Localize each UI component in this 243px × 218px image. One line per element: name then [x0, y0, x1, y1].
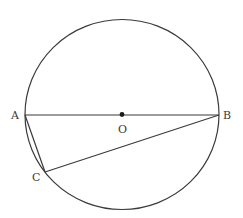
chord-bc	[45, 115, 219, 172]
center-point-o	[120, 112, 125, 117]
circle-diagram: A B O C	[0, 0, 243, 218]
label-b: B	[223, 109, 231, 122]
label-o: O	[118, 123, 127, 136]
label-c: C	[32, 171, 40, 184]
label-a: A	[10, 109, 20, 122]
chord-ac	[25, 115, 45, 172]
